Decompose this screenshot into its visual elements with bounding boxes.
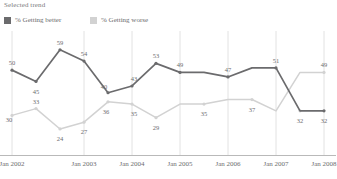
x-axis-tick-label: Jan 2005	[167, 160, 192, 168]
legend-swatch-icon-worse	[90, 17, 97, 24]
data-point	[130, 102, 133, 105]
data-point	[82, 121, 85, 124]
x-axis-line	[0, 155, 336, 156]
legend-label-worse: % Getting worse	[101, 16, 148, 24]
x-axis-tick-label: Jan 2003	[71, 160, 96, 168]
data-label: 30	[6, 116, 13, 123]
data-label: 27	[81, 128, 88, 135]
x-axis-tick-label: Jan 2007	[263, 160, 288, 168]
data-point	[130, 84, 133, 87]
data-point	[106, 100, 109, 103]
data-label: 45	[33, 88, 40, 95]
data-point	[58, 48, 61, 51]
data-point	[10, 69, 13, 72]
data-point	[154, 116, 157, 119]
data-point	[82, 59, 85, 62]
data-point	[322, 71, 325, 74]
data-label: 59	[57, 38, 64, 45]
data-label: 32	[297, 116, 304, 123]
data-label: 24	[57, 134, 64, 141]
data-point	[34, 80, 37, 83]
page-title: Selected trend	[4, 1, 45, 9]
data-label: 33	[33, 97, 40, 104]
data-label: 51	[273, 56, 280, 63]
data-label: 43	[131, 74, 138, 81]
data-label: 36	[103, 107, 110, 114]
data-label: 49	[321, 61, 328, 68]
x-axis-tick-label: Jan 2008	[311, 160, 336, 168]
x-axis-tick-label: Jan 2004	[119, 160, 144, 168]
legend-item-getting-worse[interactable]: % Getting worse	[90, 14, 148, 26]
data-point	[34, 107, 37, 110]
data-point	[178, 71, 181, 74]
series-line-undefined	[12, 72, 324, 129]
data-label: 29	[153, 123, 160, 130]
x-axis-tick-label: Jan 2002	[0, 160, 25, 168]
data-point	[202, 102, 205, 105]
data-point	[106, 91, 109, 94]
x-axis-tick-labels: Jan 2002Jan 2003Jan 2004Jan 2005Jan 2006…	[0, 160, 336, 174]
x-axis-tick-label: Jan 2006	[215, 160, 240, 168]
legend-item-getting-better[interactable]: % Getting better	[4, 14, 61, 26]
data-label: 35	[201, 110, 208, 117]
data-label: 37	[249, 105, 256, 112]
data-point	[250, 98, 253, 101]
plot-area: 5045595440435349475132303324273635293537…	[0, 31, 336, 156]
legend-label-better: % Getting better	[15, 16, 61, 24]
data-point	[154, 62, 157, 65]
data-label: 53	[153, 52, 160, 59]
legend-swatch-icon-better	[4, 17, 11, 24]
data-point	[322, 109, 325, 112]
plot-svg	[0, 31, 336, 156]
data-label: 50	[9, 59, 16, 66]
data-label: 54	[81, 50, 88, 57]
data-label: 32	[321, 116, 328, 123]
data-label: 49	[177, 61, 184, 68]
data-point	[274, 66, 277, 69]
data-label: 35	[131, 110, 138, 117]
data-label: 47	[225, 65, 232, 72]
data-label: 40	[101, 82, 108, 89]
data-point	[226, 75, 229, 78]
data-point	[58, 127, 61, 130]
